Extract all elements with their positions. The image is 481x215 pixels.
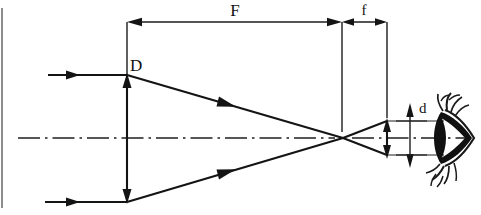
eyelashes-bottom: [426, 163, 456, 187]
label-f: f: [362, 2, 367, 18]
label-d: d: [419, 100, 427, 116]
incoming-ray-top: [48, 71, 127, 80]
dimension-f: f: [342, 2, 387, 26]
dimension-d: d: [396, 100, 427, 168]
optical-ray-diagram: F f d D: [0, 0, 481, 215]
observer-eye: [426, 93, 474, 187]
objective-aperture: [123, 22, 132, 204]
diagram-canvas: F f d D: [0, 0, 481, 215]
converging-ray-bottom: [127, 138, 343, 202]
dimension-F: F: [127, 1, 342, 26]
converging-ray-top: [127, 75, 343, 138]
label-D: D: [130, 56, 142, 75]
label-F: F: [230, 1, 239, 20]
incoming-ray-bottom: [45, 198, 127, 207]
label-D-group: D: [130, 56, 142, 75]
eyepiece-extension-lines: [342, 22, 387, 132]
